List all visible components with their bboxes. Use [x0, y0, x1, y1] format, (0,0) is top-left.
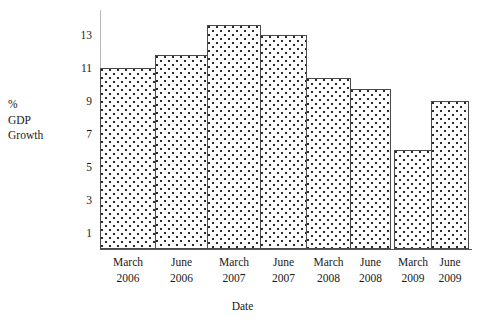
bar-june-2006 — [155, 55, 208, 249]
bar-march-2008 — [306, 78, 351, 249]
x-tick-label: June 2009 — [420, 255, 480, 286]
x-tick-year: 2009 — [420, 271, 480, 287]
bar-june-2009 — [431, 101, 469, 249]
x-tick-label: March 2006 — [98, 255, 158, 286]
x-tick-month: March — [98, 255, 158, 271]
x-tick-label: June 2006 — [152, 255, 212, 286]
y-tick-label: 7 — [52, 128, 92, 140]
bar-march-2006 — [100, 68, 156, 249]
y-tick-label: 11 — [52, 62, 92, 74]
plot-area — [100, 10, 472, 250]
y-axis-tick-labels: 13 11 9 7 5 3 1 — [52, 0, 92, 260]
bar-march-2009 — [394, 150, 432, 249]
x-tick-year: 2006 — [98, 271, 158, 287]
y-tick-label: 1 — [52, 227, 92, 239]
y-tick-label: 3 — [52, 194, 92, 206]
y-tick-label: 5 — [52, 161, 92, 173]
bar-june-2008 — [350, 89, 391, 249]
x-axis-tick-labels: March 2006 June 2006 March 2007 June 200… — [100, 255, 472, 295]
x-tick-year: 2006 — [152, 271, 212, 287]
x-axis-line — [100, 249, 472, 250]
bar-series — [100, 10, 472, 250]
bar-march-2007 — [207, 25, 261, 249]
y-tick-label: 13 — [52, 29, 92, 41]
bar-june-2007 — [260, 35, 307, 249]
bar-chart-figure: % GDP Growth 13 11 9 7 5 3 1 March 2006 — [0, 0, 485, 328]
x-tick-month: June — [420, 255, 480, 271]
y-tick-label: 9 — [52, 95, 92, 107]
x-tick-month: June — [152, 255, 212, 271]
x-axis-title: Date — [0, 300, 485, 312]
